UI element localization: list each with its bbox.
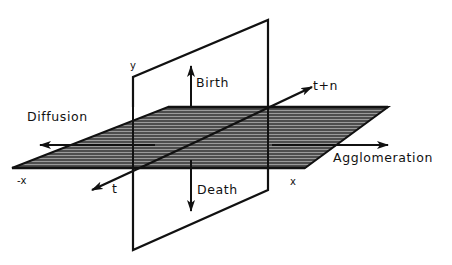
x-axis-label: x <box>290 177 296 187</box>
vertical-plane-lower <box>133 168 268 250</box>
diagram-canvas <box>0 0 452 265</box>
t-plus-n-label: t+n <box>313 80 338 93</box>
vertical-plane <box>133 20 268 107</box>
neg-x-axis-label: -x <box>17 176 27 186</box>
agglomeration-label: Agglomeration <box>333 152 433 165</box>
y-axis-label: y <box>130 61 136 71</box>
birth-label: Birth <box>196 77 229 90</box>
death-label: Death <box>197 184 238 197</box>
t-label: t <box>112 183 118 196</box>
diffusion-label: Diffusion <box>27 111 88 124</box>
